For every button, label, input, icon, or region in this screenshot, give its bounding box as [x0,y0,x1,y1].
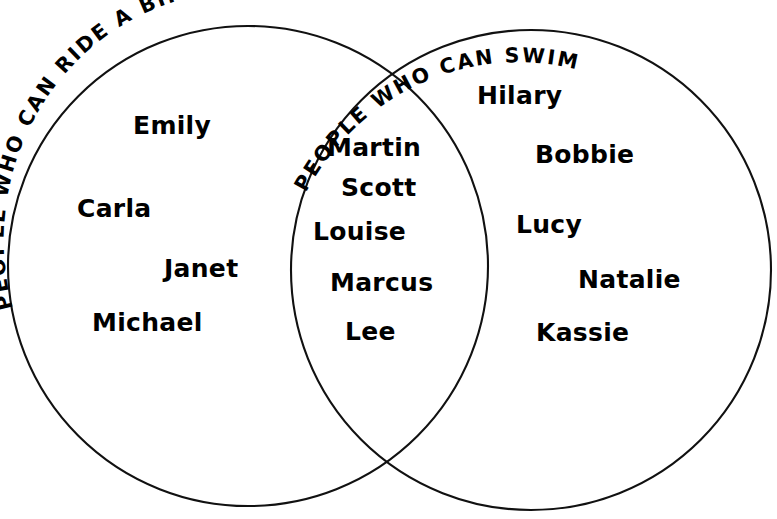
name-label: Lucy [516,212,582,237]
name-label: Marcus [330,270,433,295]
venn-circles-svg: PEOPLE WHO CAN RIDE A BIKE PEOPLE WHO CA… [0,0,777,519]
name-label: Carla [77,196,152,221]
name-label: Hilary [477,83,562,108]
name-label: Kassie [536,320,629,345]
venn-diagram: PEOPLE WHO CAN RIDE A BIKE PEOPLE WHO CA… [0,0,777,519]
name-label: Scott [341,175,416,200]
name-label: Martin [327,135,421,160]
name-label: Emily [133,113,211,138]
name-label: Michael [92,310,203,335]
name-label: Natalie [578,267,681,292]
right-circle-label: PEOPLE WHO CAN SWIM [289,43,582,195]
name-label: Bobbie [535,142,634,167]
name-label: Janet [164,256,238,281]
name-label: Lee [345,319,396,344]
name-label: Louise [313,219,406,244]
left-circle [8,26,488,506]
